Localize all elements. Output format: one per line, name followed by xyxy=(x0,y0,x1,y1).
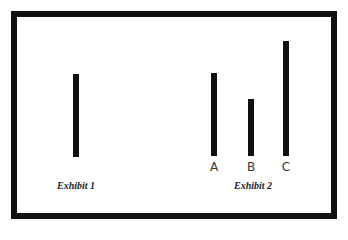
exhibit2-label-b: B xyxy=(244,161,258,173)
exhibit2-line-b xyxy=(248,99,254,156)
exhibit1-caption: Exhibit 1 xyxy=(57,180,95,192)
exhibit2-label-c: C xyxy=(279,161,293,173)
exhibit2-label-a: A xyxy=(207,161,221,173)
exhibit2-line-a xyxy=(211,73,217,156)
exhibit2-caption: Exhibit 2 xyxy=(234,180,272,192)
exhibit1-reference-line xyxy=(73,74,79,157)
exhibit2-line-c xyxy=(283,41,289,156)
